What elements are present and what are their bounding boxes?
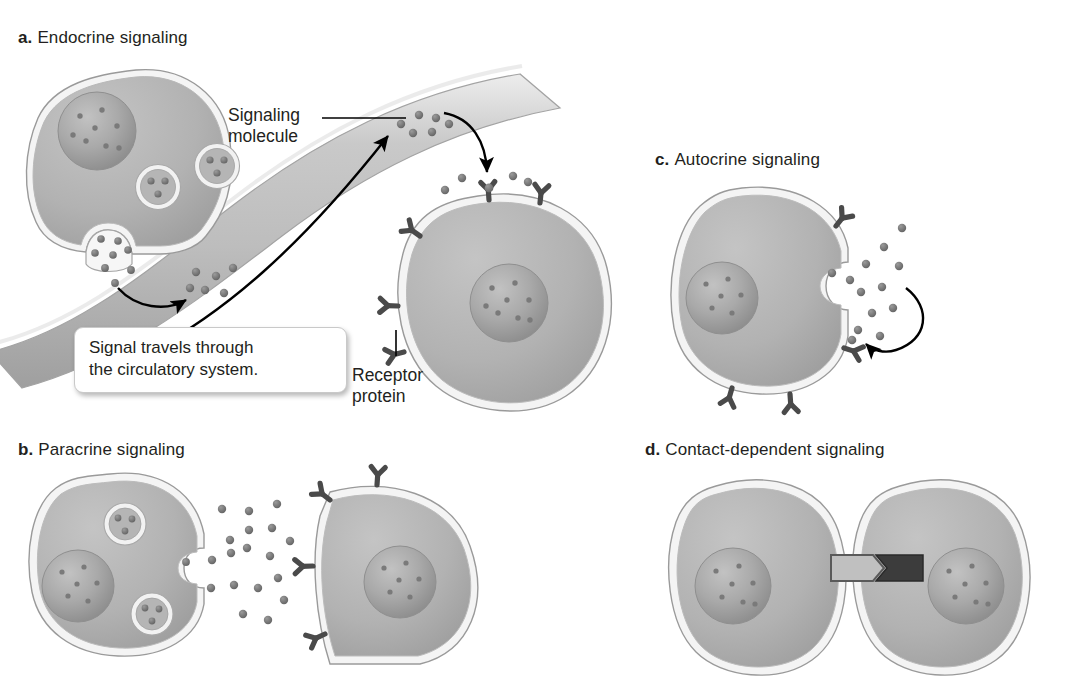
secretory-vesicle (136, 165, 181, 210)
panel-letter-a: a. (18, 28, 32, 47)
contact-junction (831, 555, 923, 581)
panel-title-b: Paracrine signaling (38, 440, 184, 459)
signaling-molecule-line2: molecule (228, 126, 300, 147)
panel-c-artwork (671, 187, 923, 412)
receptor-protein-label: Receptor protein (352, 365, 423, 408)
contact-cell-left (669, 480, 846, 675)
panel-title-d: Contact-dependent signaling (665, 440, 884, 459)
circulatory-callout: Signal travels through the circulatory s… (74, 327, 347, 393)
secretory-vesicle (131, 593, 173, 635)
panel-label-a: a.Endocrine signaling (18, 28, 188, 48)
receptor-protein (380, 298, 398, 313)
autocrine-feedback-arrow (866, 288, 923, 352)
panel-label-c: c.Autocrine signaling (655, 150, 820, 170)
diffusing-molecules-b (207, 500, 294, 624)
receptor-protein-line1: Receptor (352, 365, 423, 386)
panel-letter-d: d. (645, 440, 660, 459)
panel-title-a: Endocrine signaling (37, 28, 187, 47)
membrane-ligand (831, 555, 884, 581)
secretory-vesicle (104, 503, 146, 545)
bound-molecule (848, 336, 857, 345)
panel-letter-c: c. (655, 150, 669, 169)
receptor-protein (370, 467, 385, 486)
signaling-molecule-line1: Signaling (228, 105, 300, 126)
secretory-vesicle (195, 144, 240, 189)
bound-molecule (485, 184, 494, 193)
panel-label-d: d.Contact-dependent signaling (645, 440, 884, 460)
panel-d-artwork (669, 480, 1030, 675)
paracrine-secreting-cell (29, 473, 204, 656)
callout-line1: Signal travels through (89, 337, 333, 359)
panel-title-c: Autocrine signaling (674, 150, 820, 169)
paracrine-target-cell (295, 467, 478, 664)
receptor-protein (783, 394, 798, 413)
signaling-molecule-label: Signaling molecule (228, 105, 300, 148)
panel-letter-b: b. (18, 440, 33, 459)
receptor-protein (295, 559, 313, 574)
autocrine-cell (671, 187, 863, 412)
figure-canvas: a.Endocrine signaling b.Paracrine signal… (0, 0, 1075, 689)
panel-label-b: b.Paracrine signaling (18, 440, 185, 460)
panel-b-artwork (29, 467, 478, 664)
receptor-protein-line2: protein (352, 386, 423, 407)
callout-line2: the circulatory system. (89, 359, 333, 381)
